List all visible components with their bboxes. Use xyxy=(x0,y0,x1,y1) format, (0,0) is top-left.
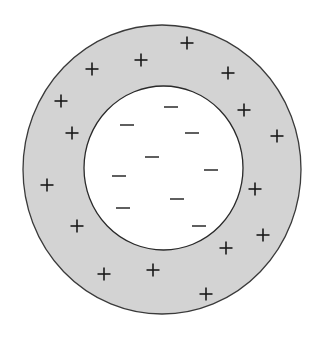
charge-diagram xyxy=(0,0,318,340)
inner-region xyxy=(84,86,243,250)
